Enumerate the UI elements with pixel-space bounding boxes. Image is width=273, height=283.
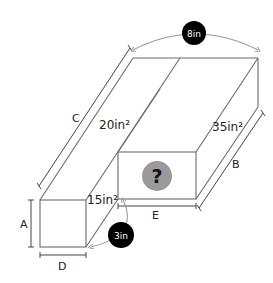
label-c: C <box>72 112 80 125</box>
box-diagram: 8in 3in ? C B A D E 20in² 35in² 15in² <box>0 0 273 283</box>
badge-8in: 8in <box>182 21 206 45</box>
label-e: E <box>152 209 159 222</box>
unknown-area-icon: ? <box>142 161 172 191</box>
svg-text:3in: 3in <box>114 231 128 241</box>
label-d: D <box>58 260 66 273</box>
area-front-small: 15in² <box>87 193 118 207</box>
badge-3in: 3in <box>108 222 134 248</box>
label-a: A <box>20 218 28 231</box>
area-top-right: 35in² <box>212 120 243 134</box>
label-b: B <box>232 158 240 171</box>
svg-text:8in: 8in <box>187 29 201 39</box>
box-outline <box>40 58 258 247</box>
svg-text:?: ? <box>151 165 162 187</box>
dimension-c-line <box>39 48 130 186</box>
area-top-left: 20in² <box>99 118 130 132</box>
